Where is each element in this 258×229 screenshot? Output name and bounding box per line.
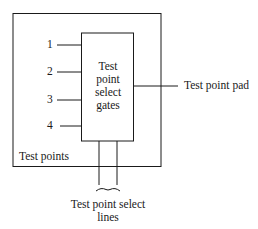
outer-box-label: Test points [19,150,69,163]
gate-label-line-2: point [82,73,134,86]
select-lines-label-line-2: lines [58,211,158,224]
input-label-3: 3 [47,93,53,106]
gate-label-line-4: gates [82,99,134,112]
diagram-canvas [0,0,258,229]
input-label-4: 4 [47,119,53,132]
select-lines-label-line-1: Test point select [58,198,158,211]
output-label: Test point pad [184,79,249,92]
select-lines-label: Test point select lines [58,198,158,224]
input-label-1: 1 [47,38,53,51]
input-label-2: 2 [47,65,53,78]
gate-label-line-1: Test [82,60,134,73]
gate-box-label: Test point select gates [82,60,134,112]
select-lines-brace [96,189,120,191]
gate-label-line-3: select [82,86,134,99]
